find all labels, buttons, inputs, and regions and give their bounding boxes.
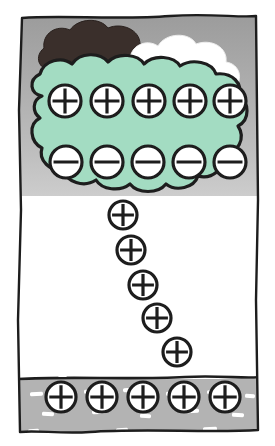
diagram-canvas: +++++−−−−−++++++++++ bbox=[0, 0, 275, 446]
negative-charge: − bbox=[91, 146, 123, 178]
positive-charge: + bbox=[87, 382, 117, 412]
positive-charge: + bbox=[174, 85, 206, 117]
framed-scene: +++++−−−−−++++++++++ bbox=[10, 8, 268, 446]
positive-charge: + bbox=[169, 382, 199, 412]
positive-charge: + bbox=[49, 85, 81, 117]
ground-dash bbox=[58, 374, 67, 377]
positive-charge: + bbox=[117, 236, 145, 264]
cloud-negative-row: −−−−− bbox=[50, 146, 246, 178]
ground-dash bbox=[245, 394, 255, 399]
ground-dash bbox=[232, 413, 244, 418]
positive-charge: + bbox=[129, 271, 157, 299]
negative-charge: − bbox=[214, 146, 246, 178]
positive-charge: + bbox=[109, 201, 137, 229]
positive-charge: + bbox=[163, 338, 191, 366]
cloud-positive-row: +++++ bbox=[49, 85, 246, 117]
ground-dash bbox=[140, 414, 151, 418]
positive-charge: + bbox=[133, 85, 165, 117]
negative-charge: − bbox=[173, 146, 205, 178]
thunderstorm-charge-diagram: +++++−−−−−++++++++++ bbox=[0, 0, 275, 446]
negative-charge: − bbox=[132, 146, 164, 178]
positive-charge: + bbox=[214, 85, 246, 117]
ground-dash bbox=[42, 412, 54, 417]
positive-charge: + bbox=[91, 85, 123, 117]
positive-charge: + bbox=[128, 382, 158, 412]
positive-charge: + bbox=[46, 382, 76, 412]
negative-charge: − bbox=[50, 146, 82, 178]
positive-charge: + bbox=[143, 304, 171, 332]
positive-charge: + bbox=[210, 382, 240, 412]
